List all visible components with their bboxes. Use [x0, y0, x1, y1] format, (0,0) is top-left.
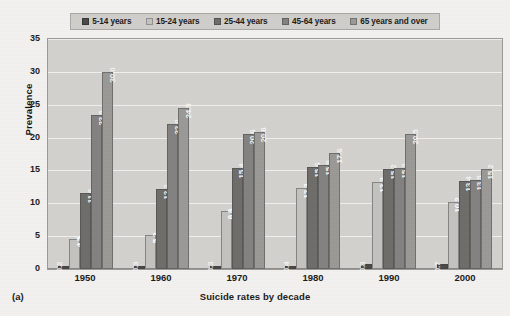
legend-item-label: 45-64 years [292, 17, 336, 26]
bar-1960-25-44-years[interactable]: 12.2 [156, 189, 167, 269]
bar-2000-65-years-and-over[interactable]: 15.2 [481, 169, 492, 269]
bar-1950-5-14-years[interactable]: 0.2 [58, 266, 69, 269]
bar-1980-45-64-years[interactable]: 15.9 [318, 165, 329, 269]
y-tick-label: 25 [30, 99, 40, 109]
bar-1950-25-44-years[interactable]: 11.6 [80, 193, 91, 269]
x-tick-label: 1990 [351, 272, 427, 283]
y-tick-label: 20 [30, 132, 40, 142]
bar-1960-15-24-years[interactable]: 5.2 [145, 235, 156, 269]
y-tick-label: 30 [30, 66, 40, 76]
bar-value-label: 24.5 [184, 104, 193, 119]
x-axis-title: Suicide rates by decade [0, 291, 510, 302]
bar-1950-15-24-years[interactable]: 4.5 [69, 239, 80, 269]
y-tick-label: 10 [30, 197, 40, 207]
x-tick-label: 1960 [123, 272, 199, 283]
bar-2000-15-24-years[interactable]: 10.2 [448, 202, 459, 269]
bar-value-label: 0.3 [131, 262, 140, 273]
y-tick-label: 15 [30, 164, 40, 174]
x-tick-label: 1970 [199, 272, 275, 283]
bar-1950-45-64-years[interactable]: 23.5 [91, 115, 102, 269]
bar-1970-45-64-years[interactable]: 20.6 [243, 134, 254, 269]
bar-1990-65-years-and-over[interactable]: 20.5 [405, 134, 416, 269]
bar-value-label: 0.7 [433, 262, 442, 273]
bar-1960-45-64-years[interactable]: 22.0 [167, 124, 178, 269]
bar-value-label: 0.4 [282, 262, 291, 273]
bar-groups: 0.24.511.623.530.00.35.212.222.024.50.38… [48, 39, 502, 269]
bar-group-1970: 0.38.815.420.620.8 [199, 39, 275, 269]
legend-item-label: 5-14 years [92, 17, 131, 26]
x-tick-label: 1980 [275, 272, 351, 283]
bar-2000-25-44-years[interactable]: 13.4 [459, 181, 470, 269]
legend-item-0[interactable]: 5-14 years [82, 17, 131, 26]
legend-item-4[interactable]: 65 years and over [350, 17, 427, 26]
legend-item-2[interactable]: 25-44 years [214, 17, 268, 26]
bar-1990-45-64-years[interactable]: 15.3 [394, 168, 405, 269]
legend-item-3[interactable]: 45-64 years [282, 17, 336, 26]
bar-value-label: 15.2 [486, 165, 495, 180]
legend-swatch-icon [282, 18, 289, 25]
bar-value-label: 20.8 [259, 128, 268, 143]
bar-1980-65-years-and-over[interactable]: 17.6 [329, 153, 340, 269]
bar-value-label: 0.2 [55, 262, 64, 273]
bar-1980-15-24-years[interactable]: 12.3 [296, 188, 307, 269]
bar-group-1990: 0.813.215.215.320.5 [351, 39, 427, 269]
bar-group-1950: 0.24.511.623.530.0 [48, 39, 124, 269]
bar-group-1980: 0.412.315.615.917.6 [275, 39, 351, 269]
y-tick-label: 5 [35, 230, 40, 240]
x-axis-ticks: 195019601970198019902000 [47, 272, 503, 283]
bar-1960-65-years-and-over[interactable]: 24.5 [178, 108, 189, 269]
panel-label: (a) [12, 291, 24, 302]
y-tick-label: 0 [35, 263, 40, 273]
legend-swatch-icon [350, 18, 357, 25]
bar-1980-5-14-years[interactable]: 0.4 [285, 266, 296, 269]
legend-swatch-icon [146, 18, 153, 25]
bar-2000-45-64-years[interactable]: 13.5 [470, 180, 481, 269]
bar-1960-5-14-years[interactable]: 0.3 [134, 266, 145, 269]
legend-item-label: 25-44 years [224, 17, 268, 26]
bar-1970-65-years-and-over[interactable]: 20.8 [254, 132, 265, 269]
bar-1950-65-years-and-over[interactable]: 30.0 [102, 72, 113, 269]
legend-item-label: 15-24 years [156, 17, 200, 26]
bar-1990-15-24-years[interactable]: 13.2 [372, 182, 383, 269]
x-tick-label: 1950 [47, 272, 123, 283]
bar-value-label: 30.0 [108, 67, 117, 82]
bar-value-label: 0.8 [358, 262, 367, 273]
bar-2000-5-14-years[interactable]: 0.7 [437, 264, 448, 269]
legend-swatch-icon [82, 18, 89, 25]
bar-1980-25-44-years[interactable]: 15.6 [307, 167, 318, 270]
bar-1990-5-14-years[interactable]: 0.8 [361, 264, 372, 269]
bar-value-label: 0.3 [206, 262, 215, 273]
y-axis-ticks: 05101520253035 [0, 38, 45, 270]
legend-swatch-icon [214, 18, 221, 25]
plot-area: 0.24.511.623.530.00.35.212.222.024.50.38… [47, 38, 503, 270]
bar-1970-15-24-years[interactable]: 8.8 [221, 211, 232, 269]
bar-1970-5-14-years[interactable]: 0.3 [210, 266, 221, 269]
x-tick-label: 2000 [427, 272, 503, 283]
bar-1970-25-44-years[interactable]: 15.4 [232, 168, 243, 269]
chart-legend: 5-14 years15-24 years25-44 years45-64 ye… [70, 13, 440, 30]
bar-group-1960: 0.35.212.222.024.5 [124, 39, 200, 269]
bar-value-label: 17.6 [335, 149, 344, 164]
y-tick-label: 35 [30, 33, 40, 43]
bar-1990-25-44-years[interactable]: 15.2 [383, 169, 394, 269]
bar-group-2000: 0.710.213.413.515.2 [426, 39, 502, 269]
legend-item-label: 65 years and over [360, 17, 427, 26]
bar-value-label: 20.5 [411, 130, 420, 145]
legend-item-1[interactable]: 15-24 years [146, 17, 200, 26]
